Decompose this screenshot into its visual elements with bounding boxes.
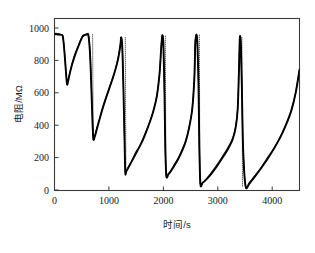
- y-tick-label-1000: 1000: [29, 23, 49, 34]
- x-tick-label-0: 0: [52, 195, 57, 206]
- chart-figure: 0 200 400 600 800 1000 0 1000 2000 3000 …: [0, 0, 315, 253]
- x-tick-label-4000: 4000: [262, 195, 282, 206]
- y-tick-label-200: 200: [34, 152, 49, 163]
- y-tick-label-0: 0: [44, 185, 49, 196]
- y-tick-label-600: 600: [34, 87, 49, 98]
- x-tick-label-2000: 2000: [153, 195, 173, 206]
- x-axis-title: 时间/s: [163, 219, 191, 230]
- y-axis-title: 电阻/MΩ: [13, 85, 24, 123]
- x-tick-label-3000: 3000: [208, 195, 228, 206]
- x-tick-label-1000: 1000: [99, 195, 119, 206]
- y-tick-label-400: 400: [34, 120, 49, 131]
- resistance-time-line-chart: 0 200 400 600 800 1000 0 1000 2000 3000 …: [0, 0, 315, 253]
- y-tick-label-800: 800: [34, 55, 49, 66]
